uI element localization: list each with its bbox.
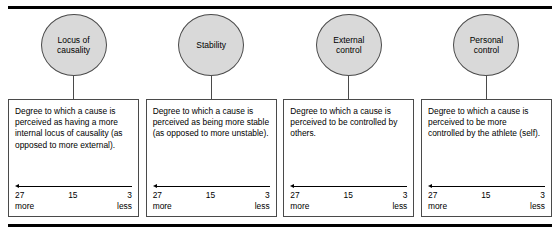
axis-rule: [293, 186, 407, 187]
scale-personal-control: 27 15 3 more less: [428, 184, 545, 216]
node-label: Stability: [194, 40, 228, 51]
scale-end-labels: more less: [153, 201, 270, 212]
scale-tick-high: 27: [428, 190, 437, 200]
node-ellipse-external-control: External control: [316, 14, 382, 76]
description-text: Degree to which a cause is perceived to …: [428, 106, 545, 184]
node-ellipse-locus-of-causality: Locus of causality: [41, 14, 107, 76]
dimension-columns: Locus of causality Degree to which a cau…: [8, 14, 552, 218]
scale-end-left: more: [153, 201, 172, 212]
scale-tick-labels: 27 15 3: [428, 190, 545, 200]
scale-tick-labels: 27 15 3: [153, 190, 270, 200]
axis-rule: [156, 186, 270, 187]
axis-rule: [18, 186, 132, 187]
connector-line: [73, 76, 74, 99]
scale-tick-high: 27: [290, 190, 299, 200]
dimension-column-locus-of-causality: Locus of causality Degree to which a cau…: [8, 14, 139, 218]
top-divider-rule: [8, 6, 552, 9]
dimension-column-stability: Stability Degree to which a cause is per…: [146, 14, 277, 218]
description-text: Degree to which a cause is perceived as …: [15, 106, 132, 184]
scale-end-labels: more less: [428, 201, 545, 212]
description-box-locus-of-causality: Degree to which a cause is perceived as …: [8, 99, 139, 217]
scale-tick-low: 3: [403, 190, 408, 200]
scale-end-left: more: [15, 201, 34, 212]
description-box-external-control: Degree to which a cause is perceived to …: [283, 99, 414, 217]
scale-end-right: less: [392, 201, 407, 212]
scale-end-right: less: [530, 201, 545, 212]
scale-tick-labels: 27 15 3: [290, 190, 407, 200]
scale-locus-of-causality: 27 15 3 more less: [15, 184, 132, 216]
scale-stability: 27 15 3 more less: [153, 184, 270, 216]
arrow-left-icon: [428, 184, 432, 188]
scale-tick-mid: 15: [68, 190, 77, 200]
scale-axis-line: [290, 184, 407, 190]
scale-tick-low: 3: [265, 190, 270, 200]
bottom-divider-rule: [8, 224, 552, 227]
scale-external-control: 27 15 3 more less: [290, 184, 407, 216]
scale-end-left: more: [428, 201, 447, 212]
description-text: Degree to which a cause is perceived to …: [290, 106, 407, 184]
node-ellipse-personal-control: Personal control: [453, 14, 519, 76]
node-label: Locus of causality: [55, 35, 92, 56]
connector-line: [211, 76, 212, 99]
scale-tick-mid: 15: [481, 190, 490, 200]
node-ellipse-stability: Stability: [178, 14, 244, 76]
scale-tick-low: 3: [127, 190, 132, 200]
scale-axis-line: [428, 184, 545, 190]
scale-tick-low: 3: [540, 190, 545, 200]
scale-tick-high: 27: [15, 190, 24, 200]
scale-end-right: less: [117, 201, 132, 212]
scale-end-labels: more less: [15, 201, 132, 212]
scale-tick-high: 27: [153, 190, 162, 200]
connector-line: [486, 76, 487, 99]
scale-tick-labels: 27 15 3: [15, 190, 132, 200]
description-text: Degree to which a cause is perceived as …: [153, 106, 270, 184]
dimension-column-external-control: External control Degree to which a cause…: [283, 14, 414, 218]
scale-tick-mid: 15: [343, 190, 352, 200]
description-box-personal-control: Degree to which a cause is perceived to …: [421, 99, 552, 217]
connector-line: [348, 76, 349, 99]
axis-rule: [431, 186, 545, 187]
arrow-left-icon: [153, 184, 157, 188]
scale-end-labels: more less: [290, 201, 407, 212]
scale-end-left: more: [290, 201, 309, 212]
attribution-dimensions-figure: Locus of causality Degree to which a cau…: [0, 0, 560, 235]
scale-axis-line: [153, 184, 270, 190]
node-label: External control: [331, 35, 366, 56]
arrow-left-icon: [15, 184, 19, 188]
dimension-column-personal-control: Personal control Degree to which a cause…: [421, 14, 552, 218]
scale-axis-line: [15, 184, 132, 190]
scale-end-right: less: [255, 201, 270, 212]
node-label: Personal control: [468, 35, 506, 56]
description-box-stability: Degree to which a cause is perceived as …: [146, 99, 277, 217]
arrow-left-icon: [290, 184, 294, 188]
scale-tick-mid: 15: [206, 190, 215, 200]
